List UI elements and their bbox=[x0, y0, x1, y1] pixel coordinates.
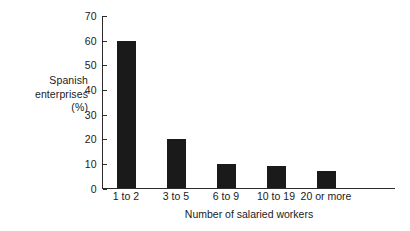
bar bbox=[267, 166, 286, 188]
y-tick-label: 40 bbox=[85, 84, 97, 96]
bar bbox=[317, 171, 336, 188]
bar-series bbox=[117, 41, 336, 189]
y-tick-label: 0 bbox=[91, 183, 97, 195]
bar bbox=[167, 139, 186, 188]
y-tick-label: 70 bbox=[85, 10, 97, 22]
y-tick-label: 60 bbox=[85, 35, 97, 47]
x-axis-title: Number of salaried workers bbox=[185, 208, 313, 220]
y-tick-label: 20 bbox=[85, 133, 97, 145]
y-tick-label: 10 bbox=[85, 158, 97, 170]
y-tick-label: 30 bbox=[85, 109, 97, 121]
y-axis-ticks: 010203040506070 bbox=[85, 10, 107, 195]
x-axis-category-label: 10 to 19 bbox=[257, 190, 295, 202]
x-axis-category-label: 3 to 5 bbox=[163, 190, 189, 202]
y-tick-label: 50 bbox=[85, 59, 97, 71]
plot-area: 010203040506070 1 to 23 to 56 to 910 to … bbox=[0, 0, 410, 231]
x-axis-category-label: 6 to 9 bbox=[213, 190, 239, 202]
x-axis-category-labels: 1 to 23 to 56 to 910 to 1920 or more bbox=[113, 190, 352, 202]
bar bbox=[217, 164, 236, 189]
x-axis-category-label: 20 or more bbox=[301, 190, 352, 202]
bar bbox=[117, 41, 136, 189]
x-axis-category-label: 1 to 2 bbox=[113, 190, 139, 202]
bar-chart-figure: Spanish enterprises (%) 010203040506070 … bbox=[0, 0, 410, 231]
